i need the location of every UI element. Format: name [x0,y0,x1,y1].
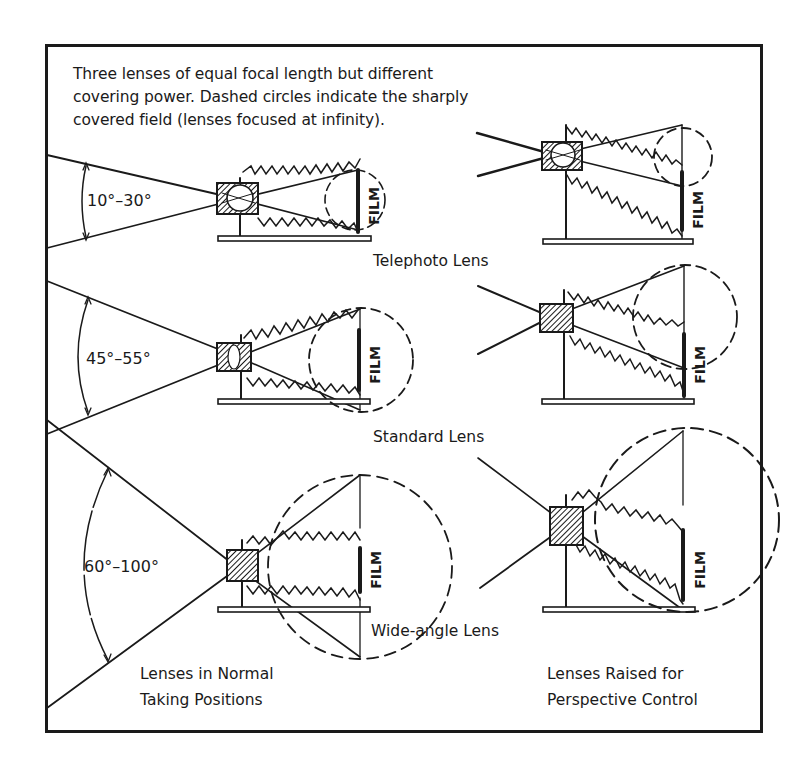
film-label: FILM [692,346,708,384]
footer-line: Taking Positions [140,687,273,713]
angle-label-telephoto: 10°–30° [87,191,152,210]
caption-line: covered field (lenses focused at infinit… [73,109,553,132]
film-label: FILM [692,551,708,589]
footer-line: Lenses in Normal [140,661,273,687]
angle-label-wide: 60°–100° [84,557,159,576]
caption-line: Three lenses of equal focal length but d… [73,63,553,86]
caption-line: covering power. Dashed circles indicate … [73,86,553,109]
film-label: FILM [366,187,382,225]
left-column-footer: Lenses in Normal Taking Positions [140,661,273,713]
right-column-footer: Lenses Raised for Perspective Control [547,661,698,713]
wide-raised [478,428,779,612]
film-label: FILM [690,191,706,229]
tele-raised [477,125,712,244]
figure-caption: Three lenses of equal focal length but d… [73,63,553,132]
angle-label-standard: 45°–55° [86,349,151,368]
standard-lens-label: Standard Lens [373,428,484,446]
telephoto-lens-label: Telephoto Lens [373,252,489,270]
wide-angle-lens-label: Wide-angle Lens [371,622,499,640]
footer-line: Perspective Control [547,687,698,713]
film-label: FILM [368,551,384,589]
footer-line: Lenses Raised for [547,661,698,687]
film-label: FILM [367,346,383,384]
